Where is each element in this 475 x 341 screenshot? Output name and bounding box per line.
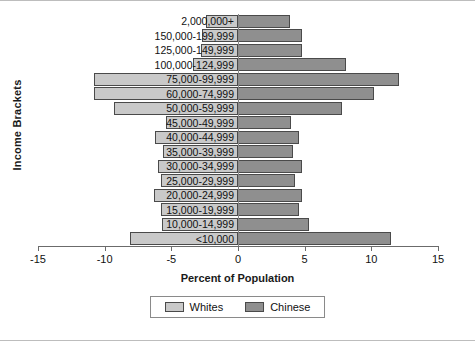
x-tick [238, 246, 239, 251]
x-tick-label: 0 [235, 253, 241, 265]
bar-chinese [238, 102, 342, 115]
bar-whites [161, 203, 238, 216]
x-tick-label: -10 [97, 253, 113, 265]
x-tick [171, 246, 172, 251]
bar-chinese [238, 58, 346, 71]
x-tick [371, 246, 372, 251]
legend-swatch-chinese [245, 302, 264, 312]
plot-area: 2,000,000+150,000-199,999125,000-149,999… [38, 14, 438, 246]
bar-whites [158, 160, 238, 173]
bar-whites [193, 58, 238, 71]
bar-whites [130, 232, 238, 245]
x-tick-label: 15 [432, 253, 444, 265]
bar-chinese [238, 44, 302, 57]
x-tick [438, 246, 439, 251]
bar-whites [161, 174, 238, 187]
legend-label-whites: Whites [190, 301, 224, 313]
bar-chinese [238, 15, 290, 28]
bar-whites [94, 73, 238, 86]
bar-whites [162, 218, 238, 231]
bar-chinese [238, 87, 374, 100]
bar-chinese [238, 116, 291, 129]
bar-whites [154, 189, 238, 202]
zero-baseline [238, 14, 239, 246]
bar-whites [201, 44, 238, 57]
x-tick-label: 10 [365, 253, 377, 265]
bar-chinese [238, 203, 299, 216]
x-axis-title: Percent of Population [0, 272, 475, 284]
bar-chinese [238, 29, 302, 42]
legend-item-chinese: Chinese [245, 301, 310, 313]
legend-swatch-whites [165, 302, 184, 312]
bar-chinese [238, 174, 295, 187]
y-axis-title: Income Brackets [6, 0, 28, 250]
y-axis-title-text: Income Brackets [11, 79, 23, 170]
bar-chinese [238, 189, 302, 202]
bar-whites [94, 87, 238, 100]
bar-whites [202, 29, 238, 42]
bar-whites [114, 102, 238, 115]
bar-chinese [238, 131, 299, 144]
frame-rule-top [0, 0, 475, 1]
legend-label-chinese: Chinese [270, 301, 310, 313]
x-tick [305, 246, 306, 251]
bar-chinese [238, 160, 302, 173]
bar-whites [166, 116, 238, 129]
bar-chinese [238, 218, 309, 231]
chart-legend: Whites Chinese [150, 296, 326, 318]
bar-chinese [238, 145, 293, 158]
legend-item-whites: Whites [165, 301, 224, 313]
bar-whites [155, 131, 238, 144]
bar-chinese [238, 73, 399, 86]
chart-container: Income Brackets 2,000,000+150,000-199,99… [0, 0, 475, 341]
x-tick [105, 246, 106, 251]
x-tick-label: 5 [302, 253, 308, 265]
x-tick-label: -15 [30, 253, 46, 265]
x-tick-label: -5 [166, 253, 176, 265]
bar-whites [206, 15, 238, 28]
bar-whites [163, 145, 238, 158]
bar-chinese [238, 232, 391, 245]
x-tick [38, 246, 39, 251]
